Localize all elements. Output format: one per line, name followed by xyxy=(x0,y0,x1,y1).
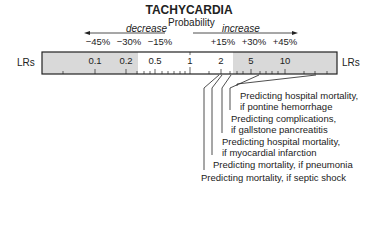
lr-tick-label: 0.5 xyxy=(148,55,161,66)
lr-tick-label: 0.1 xyxy=(88,55,101,66)
lr-tick-label: 2 xyxy=(218,55,223,66)
axis-label-right: LRs xyxy=(342,57,360,68)
annotation-septic-shock: Predicting mortality, if septic shock xyxy=(201,172,346,183)
annotation-pontine-hemorrhage: Predicting hospital mortality, if pontin… xyxy=(240,90,358,112)
annotation-pneumonia: Predicting mortality, if pneumonia xyxy=(213,159,353,170)
annotation-myocardial-infarction: Predicting hospital mortality, if myocar… xyxy=(222,136,340,158)
lr-tick-label: 0.2 xyxy=(119,55,132,66)
lr-tick-label: 10 xyxy=(280,55,291,66)
lr-tick-label: 5 xyxy=(248,55,253,66)
annotation-gallstone-pancreatitis: Predicting complications, if gallstone p… xyxy=(231,113,336,135)
lr-tick-label: 1 xyxy=(187,55,192,66)
axis-label-left: LRs xyxy=(17,57,35,68)
